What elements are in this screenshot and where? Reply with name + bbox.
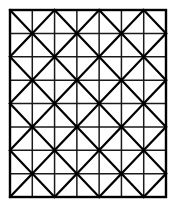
- figure-root: [0, 0, 175, 208]
- geometric-pattern-svg: [0, 0, 175, 208]
